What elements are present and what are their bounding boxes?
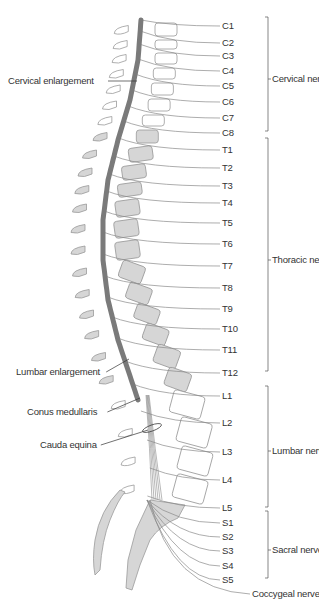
spinous-process (75, 290, 89, 299)
vertebral-body (151, 83, 173, 95)
segment-label-t10: T10 (222, 324, 238, 334)
segment-label-t5: T5 (222, 218, 233, 228)
vertebral-column (71, 23, 214, 590)
spinal-nerve-c6 (132, 90, 220, 102)
spinous-process (71, 246, 85, 255)
spinous-process (73, 268, 87, 277)
spinous-process (73, 204, 87, 213)
spinous-process (92, 353, 106, 362)
segment-label-c5: C5 (222, 81, 234, 91)
segment-label-t11: T11 (222, 345, 237, 355)
vertebral-body (136, 130, 158, 143)
vertebral-body (142, 115, 164, 126)
spinous-process (93, 133, 107, 142)
vertebral-body (152, 343, 181, 369)
segment-label-c6: C6 (222, 97, 234, 107)
cauda-equina-label: Cauda equina (40, 440, 97, 450)
spinous-process (99, 376, 113, 385)
lumbar-nerves-label: Lumbar nerves (272, 446, 319, 456)
segment-label-l1: L1 (222, 391, 232, 401)
spinous-process (113, 41, 127, 50)
segment-label-s4: S4 (222, 561, 233, 571)
spinous-process (109, 70, 123, 79)
vertebral-body (155, 23, 177, 36)
spinal-nerve-c1 (141, 20, 220, 26)
segment-label-s3: S3 (222, 546, 233, 556)
spinous-process (80, 310, 94, 319)
lumbar-nerves-bracket (265, 386, 268, 507)
segment-label-t9: T9 (222, 304, 233, 314)
spinous-process (121, 457, 135, 466)
conus-medullaris-label: Conus medullaris (27, 407, 97, 417)
spinous-process (111, 401, 125, 410)
vertebral-body (128, 145, 154, 162)
thoracic-nerves-bracket (265, 138, 268, 371)
segment-label-t1: T1 (222, 145, 233, 155)
spinous-process (106, 85, 120, 94)
spinous-process (112, 55, 126, 64)
spinal-nerve-c5 (135, 74, 220, 86)
segment-label-c7: C7 (222, 113, 234, 123)
segment-label-t2: T2 (222, 163, 233, 173)
segment-label-l3: L3 (222, 447, 232, 457)
segment-label-t8: T8 (222, 283, 233, 293)
segment-label-l2: L2 (222, 418, 232, 428)
spinal-nerve-c4 (138, 59, 220, 71)
spinal-nerve-c3 (139, 44, 220, 56)
cervical-nerves-label: Cervical nerves (272, 74, 319, 84)
vertebral-body (153, 68, 175, 79)
spinous-process (98, 117, 112, 126)
segment-label-t12: T12 (222, 368, 238, 378)
spinal-nerve-t10 (112, 317, 220, 329)
vertebral-body (115, 198, 141, 217)
cervical-nerves-bracket (265, 17, 268, 131)
segment-label-s5: S5 (222, 575, 233, 585)
cauda-equina-strand (148, 395, 160, 500)
spinous-process (83, 150, 97, 159)
sacral-nerves-bracket (265, 511, 268, 578)
vertebral-body (155, 53, 177, 64)
segment-label-l4: L4 (222, 475, 232, 485)
group-brackets (265, 17, 271, 578)
segment-label-c3: C3 (222, 51, 234, 61)
vertebral-body (113, 218, 139, 238)
vertebral-body (114, 239, 140, 260)
spinal-nerve-c7 (128, 106, 220, 118)
cauda-equina-strand (149, 395, 162, 500)
vertebral-body (121, 163, 147, 180)
sacral-nerves-label: Sacral nerves (272, 545, 319, 555)
thoracic-nerves-label: Thoracic nerves (272, 255, 319, 265)
segment-label-l5: L5 (222, 503, 232, 513)
spinal-nerve-t9 (108, 297, 220, 309)
segment-label-t7: T7 (222, 261, 233, 271)
spinal-cord-diagram (0, 0, 319, 600)
segment-label-c4: C4 (222, 66, 234, 76)
cervical-enlargement-label: Cervical enlargement (8, 76, 94, 86)
segment-label-t6: T6 (222, 239, 233, 249)
vertebral-body (148, 99, 170, 111)
spinal-nerve-c2 (140, 31, 220, 43)
segment-label-t3: T3 (222, 181, 233, 191)
vertebral-body (175, 416, 212, 448)
coccygeal-nerve-label: Coccygeal nerve (252, 589, 319, 599)
segment-label-s1: S1 (222, 518, 233, 528)
vertebral-body (176, 445, 213, 476)
sacral-crest (94, 490, 126, 575)
spinous-process (114, 26, 128, 35)
lumbar-enlargement-label: Lumbar enlargement (16, 367, 100, 377)
segment-label-s2: S2 (222, 532, 233, 542)
segment-label-t4: T4 (222, 198, 233, 208)
segment-label-c2: C2 (222, 38, 234, 48)
cauda-equina-strand (146, 395, 152, 500)
spinous-process (78, 168, 92, 177)
spinous-process (75, 186, 89, 195)
spinous-process (103, 101, 117, 110)
spinous-process (85, 331, 99, 340)
spinal-nerve-t11 (118, 338, 221, 350)
segment-label-c8: C8 (222, 128, 234, 138)
vertebral-body (155, 40, 177, 49)
segment-label-c1: C1 (222, 21, 234, 31)
spinous-process (71, 225, 85, 234)
